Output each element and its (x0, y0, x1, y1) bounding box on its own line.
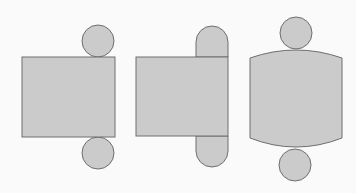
net-c-bottom-circle (279, 149, 311, 181)
net-b-top-tab (196, 26, 228, 57)
net-c-top-circle (280, 17, 312, 49)
net-b-bottom-tab (196, 136, 228, 167)
net-a-bottom-circle (82, 137, 114, 169)
net-c-curved-body (250, 50, 342, 147)
net-b-rectangle (136, 57, 228, 136)
cylinder-nets-diagram (0, 0, 356, 193)
net-a-rectangle (22, 57, 115, 137)
net-a-top-circle (82, 25, 114, 57)
